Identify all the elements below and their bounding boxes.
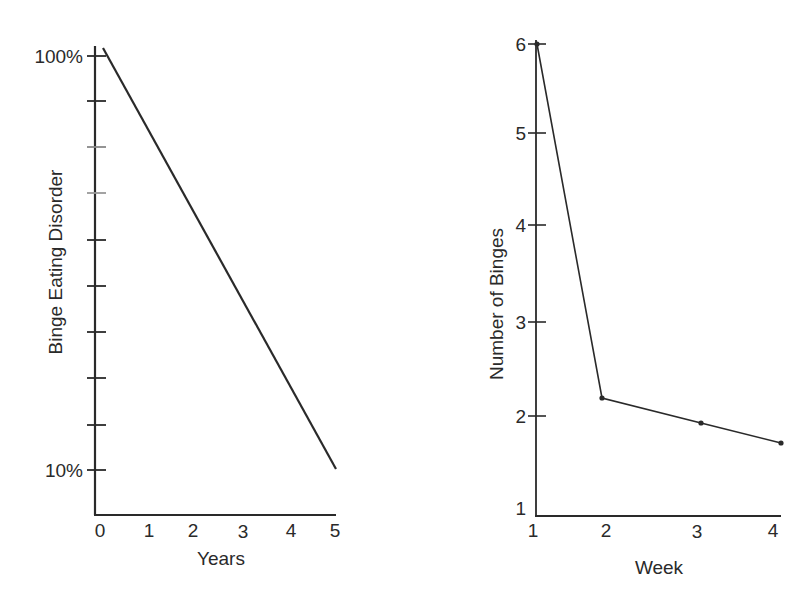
right-ytick-5: 5: [515, 123, 526, 144]
charts-canvas: 100% 10% 0 1 2 3 4 5 Years Binge Eating …: [0, 0, 801, 601]
right-y-axis-title: Number of Binges: [486, 228, 507, 380]
left-xtick-5: 5: [330, 520, 341, 541]
left-xtick-3: 3: [238, 521, 249, 542]
right-chart: 6 5 4 3 2 1 1 2 3 4 Week Number of Binge…: [486, 34, 784, 578]
right-ytick-4: 4: [515, 215, 526, 236]
right-ytick-6: 6: [515, 34, 526, 55]
left-data-line: [103, 48, 336, 469]
left-ytick-10: 10%: [45, 460, 83, 481]
right-ytick-2: 2: [515, 406, 526, 427]
right-x-axis-title: Week: [635, 557, 684, 578]
right-ytick-3: 3: [515, 312, 526, 333]
right-xtick-1: 1: [528, 520, 539, 541]
left-chart: 100% 10% 0 1 2 3 4 5 Years Binge Eating …: [34, 46, 340, 569]
left-xtick-2: 2: [188, 520, 199, 541]
data-point-week-4: [778, 440, 783, 445]
right-ytick-1: 1: [515, 498, 526, 519]
data-point-week-1: [534, 41, 539, 46]
right-xtick-2: 2: [601, 520, 612, 541]
left-y-ticks: [87, 56, 106, 470]
left-x-axis-title: Years: [197, 548, 245, 569]
left-xtick-0: 0: [95, 520, 106, 541]
data-point-week-2: [599, 395, 604, 400]
right-xtick-3: 3: [692, 521, 703, 542]
right-data-line: [537, 44, 781, 443]
right-xtick-4: 4: [768, 520, 779, 541]
right-y-ticks: [528, 44, 546, 416]
right-data-markers: [534, 41, 783, 445]
left-xtick-1: 1: [144, 520, 155, 541]
left-ytick-100: 100%: [34, 46, 83, 67]
left-xtick-4: 4: [286, 520, 297, 541]
left-y-axis-title: Binge Eating Disorder: [45, 169, 66, 354]
data-point-week-3: [698, 420, 703, 425]
